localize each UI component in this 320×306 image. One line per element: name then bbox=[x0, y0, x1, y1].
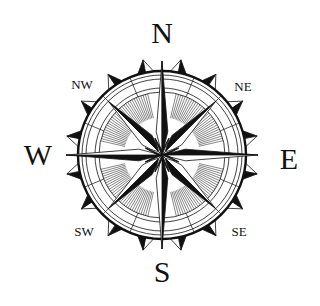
label-east: E bbox=[280, 144, 298, 174]
label-southwest: SW bbox=[74, 225, 94, 238]
label-southeast: SE bbox=[231, 225, 246, 238]
label-west: W bbox=[24, 140, 52, 170]
label-south: S bbox=[154, 257, 171, 287]
label-northwest: NW bbox=[71, 78, 93, 91]
label-north: N bbox=[151, 18, 173, 48]
label-northeast: NE bbox=[234, 80, 251, 93]
